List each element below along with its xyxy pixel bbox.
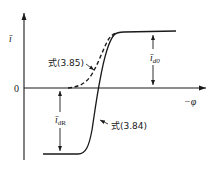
x-axis-label: −φ bbox=[184, 96, 197, 107]
dashed-curve-leader bbox=[86, 64, 94, 70]
y-axis-label: ī bbox=[9, 33, 13, 44]
solid-curve-label: 式(3.84) bbox=[111, 120, 147, 131]
dashed-curve-label: 式(3.85) bbox=[48, 57, 84, 68]
characteristic-diagram: ī 0 −φ īd0 īdR 式(3.85) 式(3.84) bbox=[0, 0, 221, 174]
origin-label: 0 bbox=[14, 83, 19, 94]
solid-curve-leader bbox=[100, 120, 108, 124]
